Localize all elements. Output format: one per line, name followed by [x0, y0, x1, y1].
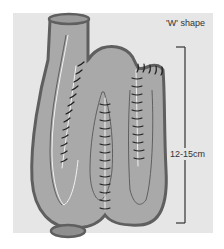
w-pouch-illustration — [0, 0, 224, 249]
measurement-bracket — [176, 47, 185, 223]
measurement-label: 12-15cm — [170, 148, 205, 160]
diagram-title: 'W' shape — [166, 18, 205, 28]
pouch-body — [32, 14, 167, 237]
